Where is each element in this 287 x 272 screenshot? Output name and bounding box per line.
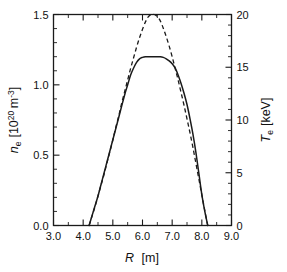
x-tick-label: 8.0 [194,230,209,242]
y-right-tick-label: 10 [237,114,249,126]
plot-canvas: 3.04.05.06.07.08.09.0 0.00.51.01.5 05101… [0,0,287,272]
y-left-label-unit-close: ] [7,87,21,90]
y-left-label-unit-m: m [7,98,21,108]
x-tick-label: 5.0 [105,230,120,242]
y-left-tick-label: 1.0 [33,79,48,91]
y-right-tick-labels: 05101520 [237,9,249,232]
x-axis-tick-labels: 3.04.05.06.07.08.09.0 [46,230,239,242]
y-left-major-ticks [54,15,60,226]
y-left-tick-label: 0.0 [33,220,48,232]
plasma-profile-figure: 3.04.05.06.07.08.09.0 0.00.51.01.5 05101… [0,0,287,272]
y-left-axis-label: ne[1020m-3] [6,87,23,154]
y-left-tick-label: 1.5 [33,9,48,21]
y-left-label-unit-open: [10 [7,120,21,137]
x-tick-label: 6.0 [135,230,150,242]
y-left-label-var: n [7,146,21,153]
y-right-tick-label: 5 [237,167,243,179]
y-left-label-unit-exp: 20 [6,110,16,120]
x-tick-label: 4.0 [76,230,91,242]
plot-frame [54,15,232,226]
x-axis-major-ticks [54,15,232,226]
x-axis-label-var: R [125,251,134,265]
x-axis-label-unit: [m] [142,251,159,265]
y-left-label-sub: e [13,141,23,146]
x-axis-label: R [m] [125,251,159,265]
y-right-tick-label: 0 [237,220,243,232]
density-curve [89,57,208,226]
y-left-tick-label: 0.5 [33,149,48,161]
y-right-label-unit: [keV] [259,98,273,127]
y-left-tick-labels: 0.00.51.01.5 [33,9,48,232]
y-right-label-sub: e [265,130,275,135]
x-tick-label: 7.0 [165,230,180,242]
y-right-axis-label: Te[keV] [259,98,275,143]
y-right-tick-label: 20 [237,9,249,21]
x-axis-minor-ticks [68,15,216,226]
y-right-tick-label: 15 [237,61,249,73]
